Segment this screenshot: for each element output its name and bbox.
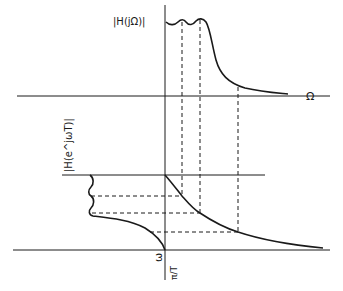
analog-frequency-label: Ω [306,90,314,103]
analog-response-curve [166,19,288,94]
bilinear-mapping-diagram: |H(jΩ)| Ω |H(e^jωT)| ω π/T [0,0,343,291]
dashed-projection-vertical-lines [182,20,238,232]
digital-frequency-label: ω [152,253,165,262]
frequency-warping-curve [165,175,323,248]
nyquist-label: π/T [169,266,179,280]
analog-magnitude-label: |H(jΩ)| [113,16,145,28]
digital-magnitude-label: |H(e^jωT)| [63,118,75,172]
